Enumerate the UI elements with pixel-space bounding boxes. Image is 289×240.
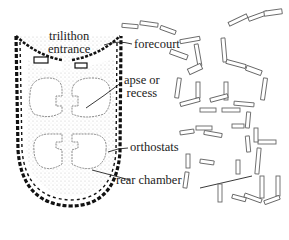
label-apse-or-recess: apse or recess [124,74,160,100]
label-rear-chamber: rear chamber [116,174,182,187]
label-forecourt: forecourt [134,38,180,51]
label-trilithon-entrance: trilithon entrance [48,30,90,56]
label-orthostats: orthostats [130,141,179,154]
left-temple-plan [16,36,121,206]
